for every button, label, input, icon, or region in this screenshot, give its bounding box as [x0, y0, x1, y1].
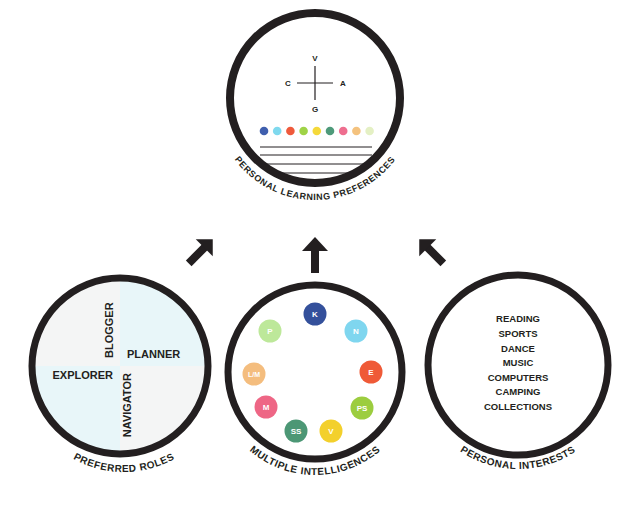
- svg-text:N: N: [353, 327, 359, 336]
- color-dot: [352, 127, 361, 136]
- axis-label-left: C: [285, 79, 291, 88]
- learning-profile-diagram: V C A G PERSONAL LEARNING PREFERENCES: [0, 0, 630, 506]
- role-navigator: NAVIGATOR: [121, 373, 133, 437]
- svg-text:L/M: L/M: [248, 371, 260, 378]
- svg-text:E: E: [368, 368, 374, 377]
- svg-text:P: P: [267, 327, 273, 336]
- axis-label-right: A: [340, 79, 346, 88]
- svg-text:PS: PS: [357, 404, 368, 413]
- color-dot: [326, 127, 335, 136]
- arrow-up-right-icon: [180, 231, 221, 272]
- axis-label-top: V: [312, 54, 318, 63]
- interest-item: DANCE: [501, 343, 535, 354]
- personal-learning-preferences-circle: V C A G PERSONAL LEARNING PREFERENCES: [230, 13, 400, 202]
- color-dots-row: [260, 127, 374, 136]
- arrow-up-icon: [302, 237, 328, 273]
- interest-item: READING: [496, 313, 540, 324]
- interest-item: CAMPING: [496, 386, 541, 397]
- svg-text:V: V: [328, 427, 334, 436]
- intelligence-badge-v: V: [320, 420, 343, 443]
- personal-interests-circle: READING SPORTS DANCE MUSIC COMPUTERS CAM…: [428, 275, 608, 471]
- interest-item: MUSIC: [503, 357, 534, 368]
- intelligence-badge-ps: PS: [351, 397, 374, 420]
- color-dot: [286, 127, 295, 136]
- color-dot: [365, 127, 374, 136]
- color-dot: [299, 127, 308, 136]
- svg-text:M: M: [263, 403, 270, 412]
- intelligence-badge-l-m: L/M: [243, 363, 266, 386]
- interest-item: COLLECTIONS: [484, 401, 552, 412]
- intelligence-badge-p: P: [259, 320, 282, 343]
- preferred-roles-circle: BLOGGER PLANNER EXPLORER NAVIGATOR PREFE…: [30, 276, 210, 474]
- svg-text:SS: SS: [291, 427, 302, 436]
- axis-label-bottom: G: [312, 105, 318, 114]
- intelligence-badge-m: M: [255, 396, 278, 419]
- role-blogger: BLOGGER: [103, 302, 115, 358]
- role-explorer: EXPLORER: [52, 369, 113, 381]
- color-dot: [273, 127, 282, 136]
- multiple-intelligences-circle: KNEPSVSSML/MP MULTIPLE INTELLIGENCES: [228, 285, 402, 477]
- color-dot: [339, 127, 348, 136]
- color-dot: [260, 127, 269, 136]
- color-dot: [313, 127, 322, 136]
- intelligence-badge-ss: SS: [285, 420, 308, 443]
- intelligence-badge-e: E: [360, 361, 383, 384]
- arrow-up-left-icon: [411, 231, 452, 272]
- interest-item: SPORTS: [498, 328, 537, 339]
- arrows: [180, 231, 452, 273]
- intelligence-badge-k: K: [304, 303, 327, 326]
- role-planner: PLANNER: [127, 348, 180, 360]
- intelligence-badge-n: N: [345, 320, 368, 343]
- svg-text:K: K: [312, 310, 318, 319]
- interest-item: COMPUTERS: [488, 372, 549, 383]
